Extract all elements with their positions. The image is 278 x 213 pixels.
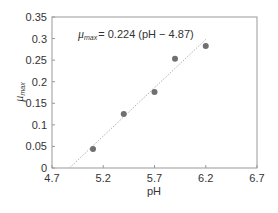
data-point [203,43,209,49]
scatter-chart: 00.050.10.150.20.250.30.35 4.75.25.76.26… [0,0,278,213]
data-point [90,146,96,152]
y-tick-label: 0.2 [32,76,47,88]
x-tick-label: 4.7 [44,172,59,184]
fit-line-segment [69,39,205,168]
x-tick-label: 5.7 [147,172,162,184]
y-axis-ticks: 00.050.10.150.20.250.30.35 [26,11,55,174]
y-tick-label: 0.15 [26,97,47,109]
y-axis-label: μmax [12,82,26,103]
x-tick-label: 6.2 [198,172,213,184]
y-tick-label: 0.1 [32,119,47,131]
data-point [152,89,158,95]
svg-text:μmax: μmax [12,82,26,103]
fit-equation-annotation: μmax= 0.224 (pH − 4.87) [77,27,194,41]
x-tick-label: 6.7 [249,172,264,184]
y-tick-label: 0.05 [26,140,47,152]
y-tick-label: 0.3 [32,33,47,45]
x-tick-label: 5.2 [96,172,111,184]
data-point [121,111,127,117]
data-point [172,56,178,62]
y-tick-label: 0.35 [26,11,47,23]
data-points [90,43,209,152]
x-axis-label: pH [147,185,161,197]
y-tick-label: 0.25 [26,54,47,66]
fit-line [69,39,205,168]
